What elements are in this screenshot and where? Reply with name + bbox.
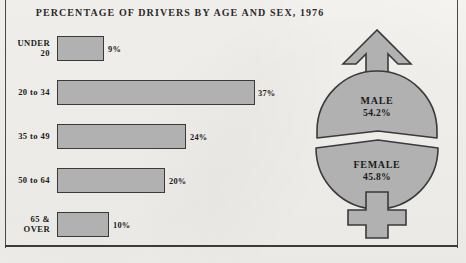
bar-value: 37% [258,89,275,98]
female-label: FEMALE [354,159,401,170]
male-female-symbol: MALE 54.2% FEMALE 45.8% [300,26,460,241]
frame-rule-bottom [5,245,458,247]
bar-label-line1: 20 to 34 [18,87,50,97]
bar-row: 35 to 49 24% [0,124,300,150]
bar-row: 20 to 34 37% [0,80,300,106]
bar-label: 65 & OVER [0,215,50,234]
bar-row: 65 & OVER 10% [0,212,300,238]
bar-20-to-34 [57,80,255,105]
bar-label-line2: 20 [41,48,50,58]
bar-chart: UNDER 20 9% 20 to 34 37% 35 to 49 24% 50… [0,36,300,241]
male-value: 54.2% [363,107,391,118]
bar-label: 20 to 34 [0,88,50,98]
bar-label: 50 to 64 [0,176,50,186]
bar-value: 20% [169,177,186,186]
bar-label-line2: OVER [24,224,50,234]
bar-65-and-over [57,212,109,237]
male-label: MALE [361,95,394,106]
bar-label-line1: UNDER [17,38,50,48]
bar-35-to-49 [57,124,186,149]
bar-row: UNDER 20 9% [0,36,300,62]
bar-label-line1: 50 to 64 [18,175,50,185]
bar-under-20 [57,36,104,61]
bar-label: UNDER 20 [0,39,50,58]
female-value: 45.8% [363,171,391,182]
bar-label-line1: 65 & [30,214,50,224]
bar-50-to-64 [57,168,165,193]
chart-title: PERCENTAGE OF DRIVERS BY AGE AND SEX, 19… [0,7,360,18]
bar-value: 10% [113,221,130,230]
bar-label: 35 to 49 [0,132,50,142]
bar-value: 24% [190,133,207,142]
bar-row: 50 to 64 20% [0,168,300,194]
chart-figure: PERCENTAGE OF DRIVERS BY AGE AND SEX, 19… [0,0,466,263]
bar-value: 9% [108,45,121,54]
bar-label-line1: 35 to 49 [18,131,50,141]
